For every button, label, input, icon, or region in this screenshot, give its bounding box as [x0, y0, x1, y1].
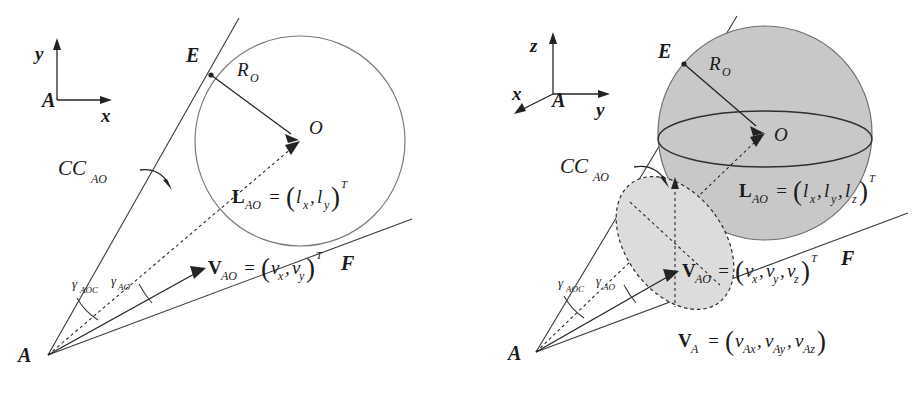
equation-vel-component-2-subscript: z [793, 272, 799, 286]
equation-los-close-paren: ) [859, 176, 868, 206]
line-of-sight-arrowhead-icon [285, 141, 300, 155]
collision-cone-callout-arrowhead-icon [163, 179, 172, 190]
angle-label-line-of-sight-symbol: γ [111, 273, 117, 288]
equation-relative-velocity-vector: V AO = ( v x , v y ) T [208, 249, 323, 283]
collision-cone-label: CC AO [58, 156, 107, 186]
equation-los-component-0: l [296, 186, 301, 207]
radius-label-subscript: O [722, 65, 731, 79]
axis-origin-label-a: A [550, 89, 565, 111]
angle-label-line-of-sight-subscript: AO [602, 282, 615, 292]
equation-vel-lhs: V [682, 260, 696, 281]
equation-los-superscript: T [869, 172, 876, 184]
equation-line-of-sight-vector: L AO = ( l x , l y ) T [232, 178, 348, 212]
equation-los-component-2-subscript: z [851, 192, 857, 206]
equation-vel-open-paren: ( [261, 253, 270, 283]
equation-vel-close-paren: ) [306, 253, 315, 283]
angle-arc-cone-half [77, 298, 98, 320]
equation-vel-lhs-subscript: AO [694, 272, 711, 286]
equation-own-vel-separator-0: , [757, 330, 762, 351]
axis-origin-label-a: A [40, 89, 55, 111]
collision-cone-label-symbol: CC [560, 154, 589, 178]
axis-label-z: z [529, 35, 538, 56]
equation-los-separator-0: , [817, 180, 822, 201]
z-axis-arrowhead-icon [549, 32, 557, 44]
equation-los-component-0: l [803, 180, 808, 201]
collision-cone-figure: y x A A E F O R O [0, 0, 913, 405]
equation-los-lhs: L [739, 180, 752, 201]
equation-los-component-1: l [317, 186, 322, 207]
equation-own-vel-lhs-subscript: A [690, 342, 699, 356]
tangent-point-e-marker [208, 72, 213, 77]
equation-los-open-paren: ( [286, 182, 295, 212]
tangent-point-label-e: E [185, 44, 199, 66]
angle-label-line-of-sight: γ AO [596, 273, 615, 292]
y-axis-arrowhead-icon [598, 90, 610, 98]
axes-3d: z y x A [511, 32, 610, 120]
equation-vel-component-0-subscript: x [277, 269, 284, 283]
equation-los-lhs-subscript: AO [751, 192, 768, 206]
tangent-point-e-marker [681, 61, 686, 66]
angle-arc-line-of-sight [139, 284, 152, 303]
equation-own-vel-close-paren: ) [817, 326, 826, 356]
angle-label-line-of-sight-symbol: γ [596, 273, 602, 288]
equation-vel-component-1-subscript: y [298, 269, 305, 283]
x-axis-line [521, 94, 553, 110]
axes-2d: y x A [33, 38, 112, 126]
equation-own-velocity-vector: V A = ( v Ax , v Ay , v Az ) [678, 326, 826, 356]
equation-vel-equals: = [243, 257, 256, 278]
equation-los-separator-0: , [310, 186, 315, 207]
panel-3d-collision-cone: z y x A [456, 0, 913, 405]
equation-los-lhs: L [232, 186, 245, 207]
equation-vel-superscript: T [811, 252, 818, 264]
tangent-point-label-e: E [657, 40, 671, 62]
angle-label-line-of-sight: γ AO [111, 273, 130, 292]
cone-lower-tangent-line [48, 219, 412, 355]
equation-los-component-0-subscript: x [809, 192, 816, 206]
equation-vel-equals: = [717, 260, 730, 281]
radius-label-symbol: R [236, 59, 249, 80]
equation-own-vel-component-1-subscript: Ay [772, 342, 786, 356]
relative-velocity-arrowhead-icon [190, 266, 206, 279]
equation-own-vel-component-0-subscript: Ax [742, 342, 756, 356]
x-axis-arrowhead-icon [514, 103, 526, 114]
equation-los-component-0-subscript: x [302, 198, 309, 212]
obstacle-center-label-o: O [774, 124, 788, 145]
equation-own-vel-equals: = [707, 330, 720, 351]
equation-los-component-1-subscript: y [830, 192, 837, 206]
equation-los-separator-1: , [838, 180, 843, 201]
angle-label-cone-half-symbol: γ [72, 276, 78, 291]
equation-vel-superscript: T [316, 249, 323, 261]
angle-label-cone-half-subscript: AOC [565, 284, 585, 294]
equation-los-equals: = [268, 186, 281, 207]
equation-vel-lhs-subscript: AO [220, 269, 237, 283]
equation-own-vel-lhs: V [678, 330, 692, 351]
collision-cone-callout-curve [140, 170, 168, 183]
equation-los-lhs-subscript: AO [244, 198, 261, 212]
equation-vel-separator-0: , [759, 260, 764, 281]
equation-los-close-paren: ) [331, 182, 340, 212]
equation-los-open-paren: ( [793, 176, 802, 206]
equation-vel-close-paren: ) [801, 256, 810, 286]
equation-vel-separator-0: , [285, 257, 290, 278]
equation-vel-component-0-subscript: x [751, 272, 758, 286]
angle-label-line-of-sight-subscript: AO [117, 282, 130, 292]
collision-cone-label-subscript: AO [592, 170, 609, 184]
angle-label-cone-half: γ AOC [72, 276, 99, 295]
cone-upper-tangent-line [48, 18, 239, 355]
equation-vel-lhs: V [208, 257, 222, 278]
axis-label-y: y [594, 99, 605, 120]
axis-label-x: x [511, 83, 522, 104]
equation-vel-component-1-subscript: y [772, 272, 779, 286]
obstacle-center-label-o: O [309, 117, 323, 138]
equation-own-vel-open-paren: ( [725, 326, 734, 356]
collision-cone-label: CC AO [560, 154, 609, 184]
y-axis-arrowhead-icon [53, 38, 61, 50]
angle-label-cone-half-symbol: γ [558, 275, 564, 290]
equation-own-vel-component-2-subscript: Az [802, 342, 815, 356]
tangent-point-label-f: F [840, 247, 855, 269]
radius-label-subscript: O [250, 71, 259, 85]
equation-los-superscript: T [341, 178, 348, 190]
equation-vel-separator-1: , [780, 260, 785, 281]
panel-2d-collision-cone: y x A A E F O R O [0, 0, 456, 405]
equation-own-vel-separator-1: , [787, 330, 792, 351]
